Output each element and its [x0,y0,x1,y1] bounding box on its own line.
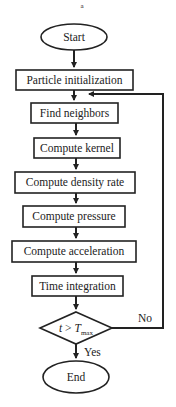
compute-kernel-node: Compute kernel [34,138,120,158]
start-node: Start [41,24,107,50]
no-label: No [138,312,152,324]
compute-acceleration-label: Compute acceleration [24,245,125,258]
particle-init-node: Particle initialization [16,70,133,90]
start-label: Start [63,31,86,43]
compute-density-rate-node: Compute density rate [15,172,135,193]
find-neighbors-node: Find neighbors [31,103,118,123]
find-neighbors-label: Find neighbors [40,107,110,120]
compute-acceleration-node: Compute acceleration [12,241,136,262]
end-label: End [67,371,86,383]
figure-mark: a [80,2,84,10]
time-integration-node: Time integration [32,276,123,296]
compute-pressure-node: Compute pressure [23,206,125,227]
decision-node: t > Tmax [40,312,112,344]
end-node: End [43,361,109,393]
flowchart: a Start Particle initialization Find nei… [0,0,176,407]
compute-kernel-label: Compute kernel [40,142,114,155]
particle-init-label: Particle initialization [26,74,122,86]
compute-density-rate-label: Compute density rate [26,176,124,189]
yes-label: Yes [84,346,101,358]
compute-pressure-label: Compute pressure [32,210,115,223]
time-integration-label: Time integration [39,280,116,293]
